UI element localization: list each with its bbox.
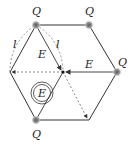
field-label-diagonal: E bbox=[37, 48, 46, 61]
dashed-vectors bbox=[12, 72, 87, 118]
charge-top-left bbox=[32, 21, 41, 30]
charge-bottom-left bbox=[32, 116, 41, 125]
charge-label-top-right: Q bbox=[85, 5, 94, 18]
field-label-horizontal: E bbox=[84, 58, 93, 71]
charges bbox=[32, 21, 122, 125]
charge-label-top-left: Q bbox=[32, 5, 41, 18]
hexagon-diagram: Q Q Q Q l l E E E bbox=[0, 0, 136, 145]
charge-label-bottom-left: Q bbox=[32, 128, 41, 141]
charge-label-right: Q bbox=[118, 56, 127, 69]
resultant-field-label: E bbox=[37, 87, 46, 100]
solid-vectors bbox=[36, 25, 117, 120]
charge-top-right bbox=[85, 21, 94, 30]
side-label-left: l bbox=[13, 38, 17, 51]
center-point bbox=[61, 70, 64, 73]
side-label-right: l bbox=[56, 38, 60, 51]
